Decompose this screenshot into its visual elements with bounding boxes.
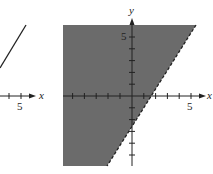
x-axis-arrow-icon [199,94,206,99]
y-tick-label-5: 5 [121,30,127,42]
graph-canvas: 5 x 5 x [0,0,213,174]
left-graph: 5 x [0,25,44,112]
x-axis-label: x [206,89,212,101]
x-tick-label-5: 5 [187,100,193,112]
left-boundary-line [0,25,26,68]
right-graph: 5 x 5 y [63,4,212,166]
left-x-axis-label: x [38,89,44,101]
y-axis-arrow-icon [130,18,135,25]
left-x-axis-arrow-icon [29,94,36,99]
y-axis-label: y [128,4,134,16]
left-x-tick-label-5: 5 [17,100,23,112]
